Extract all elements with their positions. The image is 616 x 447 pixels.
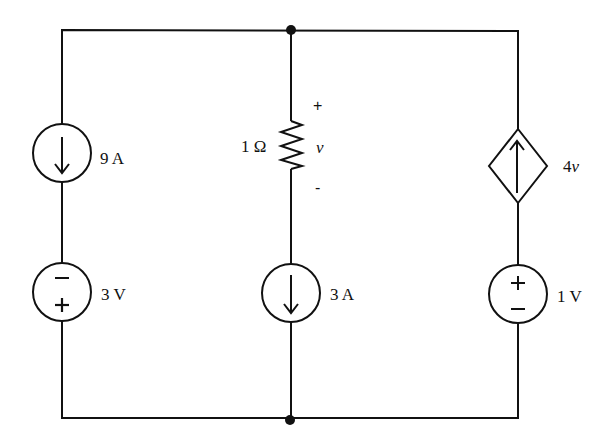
bottom-node-dot	[285, 415, 295, 425]
voltage-v-label: v	[316, 138, 324, 157]
voltage-plus-label: +	[313, 97, 322, 114]
label-4v: 4v	[563, 157, 580, 176]
voltage-minus-label: -	[315, 179, 320, 196]
resistor-1ohm: 1 Ω + v -	[241, 97, 324, 196]
label-3a: 3 A	[330, 285, 355, 304]
top-node-dot	[286, 25, 296, 35]
resistor-zigzag-icon	[281, 121, 302, 169]
label-1v: 1 V	[557, 287, 582, 306]
dependent-current-source-4v: 4v	[489, 129, 580, 203]
voltage-source-circle	[489, 265, 547, 323]
voltage-source-circle	[33, 263, 91, 321]
voltage-source-1v: 1 V	[489, 265, 582, 323]
label-1ohm: 1 Ω	[241, 137, 266, 156]
circuit-diagram: 9 A 3 V 1 Ω + v - 3 A 4v	[0, 0, 616, 447]
label-3v: 3 V	[101, 285, 126, 304]
wires	[62, 30, 518, 418]
current-source-9a: 9 A	[33, 124, 125, 182]
label-9a: 9 A	[100, 149, 125, 168]
current-source-3a: 3 A	[262, 264, 355, 322]
voltage-source-3v: 3 V	[33, 263, 126, 321]
